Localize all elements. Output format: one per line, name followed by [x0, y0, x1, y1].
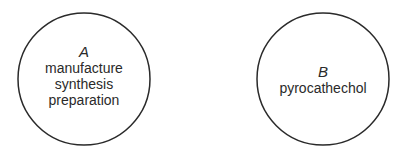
circle-a-letter: A [34, 44, 134, 60]
circle-b-line-1: pyrocathechol [268, 80, 378, 96]
circle-b-letter: B [268, 64, 378, 80]
circle-a-line-3: preparation [34, 92, 134, 108]
circle-a-line-2: synthesis [34, 76, 134, 92]
circle-a-line-1: manufacture [34, 60, 134, 76]
circle-b-label: B pyrocathechol [268, 64, 378, 96]
circle-a-label: A manufacture synthesis preparation [34, 44, 134, 108]
